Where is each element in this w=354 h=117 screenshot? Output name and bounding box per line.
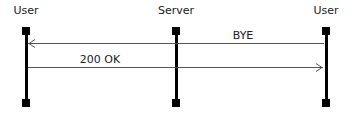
lifeline-bottom-block — [22, 99, 30, 107]
actor-label-server: Server — [158, 4, 194, 17]
lifeline-bottom-block — [172, 99, 180, 107]
lifeline-top-block — [22, 27, 30, 35]
message-label: 200 OK — [80, 53, 120, 66]
actor-label-user-right: User — [313, 4, 338, 17]
lifeline-top-block — [172, 27, 180, 35]
lifeline-bar — [325, 35, 328, 99]
message-arrow-line — [28, 67, 323, 68]
actor-label-user-left: User — [13, 4, 38, 17]
lifeline-bottom-block — [322, 99, 330, 107]
lifeline-top-block — [322, 27, 330, 35]
arrow-right-icon — [315, 63, 323, 72]
message-label: BYE — [233, 29, 254, 42]
message-arrow-line — [28, 43, 324, 44]
arrow-left-icon — [28, 39, 36, 48]
